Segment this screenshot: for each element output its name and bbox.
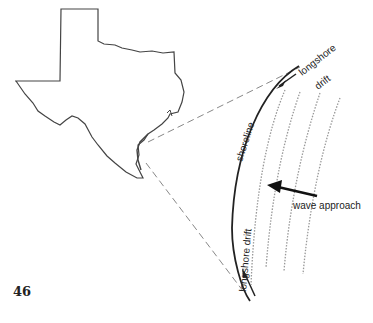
wave-crests <box>251 90 340 285</box>
page-number: 46 <box>13 284 31 299</box>
label-shoreline: shoreline <box>233 120 256 162</box>
label-drift-top: drift <box>312 73 332 92</box>
label-wave-approach: wave approach <box>292 200 361 211</box>
projection-line-top <box>148 67 300 142</box>
wave-approach-arrow-shaft <box>278 187 317 196</box>
projection-line-bottom <box>146 163 243 291</box>
label-longshore-top: longshore <box>296 42 338 78</box>
diagram-canvas: longshore drift shoreline longshore drif… <box>0 0 373 323</box>
texas-map-outline <box>15 9 184 178</box>
